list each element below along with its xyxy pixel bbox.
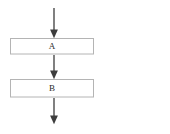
edge-entry-arrow: [50, 8, 58, 38]
flowchart-canvas: [0, 0, 170, 134]
node-label-a: A: [10, 42, 94, 51]
edge-a-to-b-arrow: [50, 55, 58, 79]
edge-exit-arrow: [50, 98, 58, 124]
node-label-b: B: [10, 84, 94, 93]
flowchart-diagram: A B: [0, 0, 170, 134]
